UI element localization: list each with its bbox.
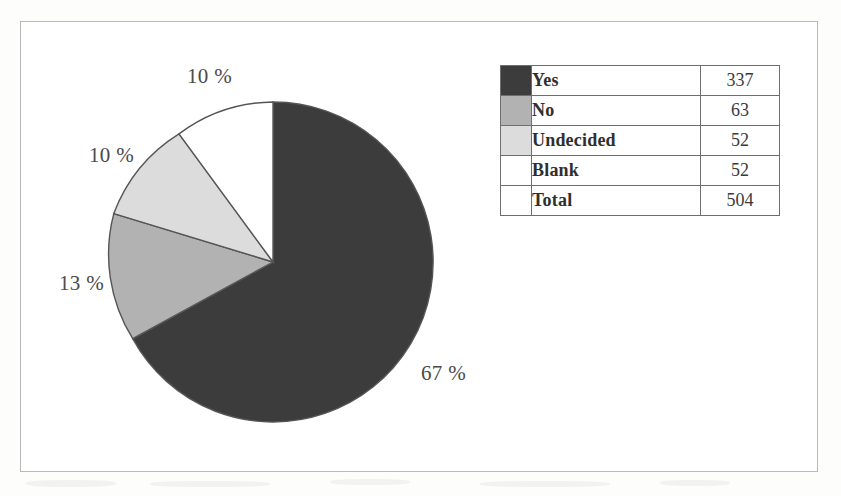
pie-label-undecided: 10 %	[89, 143, 134, 168]
legend-swatch-cell-no	[501, 96, 532, 126]
legend-value-blank: 52	[701, 156, 780, 186]
table-row: Undecided 52	[501, 126, 780, 156]
scan-smudge	[660, 480, 730, 486]
legend-value-undecided: 52	[701, 126, 780, 156]
legend-label-undecided: Undecided	[532, 126, 701, 156]
pie-chart: 10 % 10 % 13 % 67 %	[21, 22, 501, 473]
pie-chart-svg	[21, 22, 501, 473]
figure-root: 10 % 10 % 13 % 67 % Yes 337 No	[0, 0, 841, 496]
legend-label-blank: Blank	[532, 156, 701, 186]
legend-swatch-cell-empty	[501, 186, 532, 216]
legend-value-yes: 337	[701, 66, 780, 96]
table-row: No 63	[501, 96, 780, 126]
scan-smudge	[480, 481, 610, 487]
scan-smudge	[330, 479, 410, 485]
legend-label-yes: Yes	[532, 66, 701, 96]
scan-smudge	[150, 481, 270, 487]
legend-swatch-cell-yes	[501, 66, 532, 96]
pie-label-yes: 67 %	[421, 361, 466, 386]
legend-value-no: 63	[701, 96, 780, 126]
legend-swatch-yes	[501, 66, 531, 95]
pie-label-blank: 10 %	[187, 64, 232, 89]
legend-swatch-blank	[501, 156, 531, 185]
pie-label-no: 13 %	[59, 271, 104, 296]
figure-frame: 10 % 10 % 13 % 67 % Yes 337 No	[20, 21, 818, 472]
scan-smudge	[26, 480, 116, 487]
legend-swatch-cell-blank	[501, 156, 532, 186]
table-row-total: Total 504	[501, 186, 780, 216]
legend-label-total: Total	[532, 186, 701, 216]
table-row: Yes 337	[501, 66, 780, 96]
legend-value-total: 504	[701, 186, 780, 216]
table-row: Blank 52	[501, 156, 780, 186]
legend-label-no: No	[532, 96, 701, 126]
legend-swatch-undecided	[501, 126, 531, 155]
legend-swatch-no	[501, 96, 531, 125]
legend-swatch-cell-undecided	[501, 126, 532, 156]
legend-table: Yes 337 No 63 Undecided 52	[500, 65, 780, 216]
